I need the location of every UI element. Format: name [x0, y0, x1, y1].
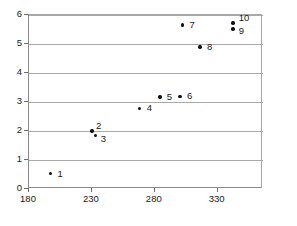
data-point-2 — [90, 129, 93, 132]
gridline-y-1 — [29, 160, 263, 161]
x-tick-mark-180 — [28, 188, 29, 192]
y-tick-mark-6 — [24, 14, 28, 15]
plot-area: 12345678910 — [28, 14, 262, 188]
data-point-3 — [94, 134, 97, 137]
y-tick-label: 3 — [2, 96, 22, 106]
y-tick-label: 2 — [2, 125, 22, 135]
data-point-label-7: 7 — [189, 20, 194, 30]
data-point-5 — [158, 95, 161, 98]
y-tick-label: 1 — [2, 154, 22, 164]
data-point-label-6: 6 — [187, 91, 192, 101]
data-point-4 — [138, 107, 141, 110]
x-tick-mark-280 — [154, 188, 155, 192]
data-point-label-2: 2 — [96, 121, 101, 131]
data-point-label-1: 1 — [57, 169, 62, 179]
gridline-y-4 — [29, 73, 263, 74]
data-point-9 — [231, 27, 234, 30]
x-tick-label: 230 — [71, 194, 111, 204]
x-tick-label: 330 — [197, 194, 237, 204]
y-tick-mark-2 — [24, 130, 28, 131]
gridline-y-2 — [29, 131, 263, 132]
data-point-8 — [198, 45, 201, 48]
y-tick-mark-5 — [24, 43, 28, 44]
y-tick-label: 5 — [2, 38, 22, 48]
y-tick-label: 4 — [2, 67, 22, 77]
gridline-y-5 — [29, 44, 263, 45]
data-point-7 — [181, 23, 184, 26]
x-tick-label: 280 — [134, 194, 174, 204]
y-tick-label: 0 — [2, 183, 22, 193]
y-tick-mark-1 — [24, 159, 28, 160]
data-point-label-8: 8 — [207, 42, 212, 52]
y-tick-mark-3 — [24, 101, 28, 102]
data-point-6 — [178, 95, 181, 98]
x-tick-mark-230 — [91, 188, 92, 192]
x-tick-mark-330 — [217, 188, 218, 192]
data-point-10 — [231, 21, 234, 24]
gridline-y-6 — [29, 15, 263, 16]
data-point-label-3: 3 — [101, 134, 106, 144]
y-tick-mark-4 — [24, 72, 28, 73]
x-tick-label: 180 — [8, 194, 48, 204]
data-point-label-4: 4 — [147, 103, 152, 113]
data-point-label-5: 5 — [167, 92, 172, 102]
data-point-label-9: 9 — [239, 26, 244, 36]
scatter-plot-screenshot: 12345678910 0123456 180230280330 — [0, 0, 297, 226]
data-point-label-10: 10 — [239, 13, 250, 23]
data-point-1 — [49, 172, 52, 175]
y-tick-label: 6 — [2, 9, 22, 19]
